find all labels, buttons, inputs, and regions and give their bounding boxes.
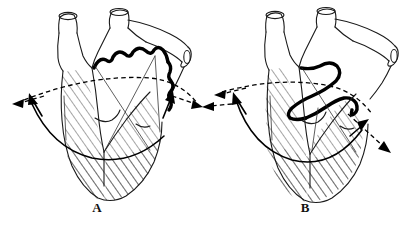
panel-b-label: B [301,200,310,215]
figure-root: A [0,0,406,227]
heart-diagram-svg: A [0,0,406,227]
panel-a-label: A [92,200,102,215]
